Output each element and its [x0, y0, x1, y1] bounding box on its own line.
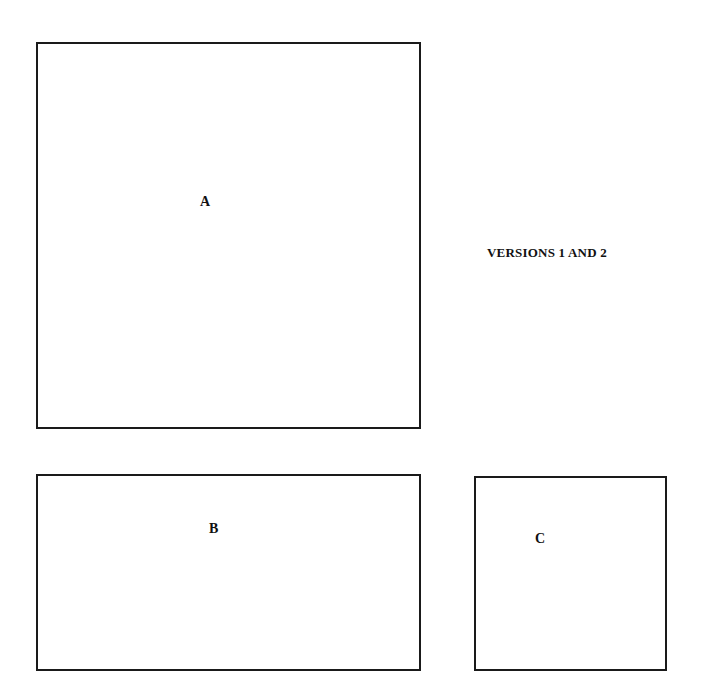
box-b-label: B [209, 521, 218, 537]
box-c [474, 476, 667, 671]
box-a [36, 42, 421, 429]
box-c-label: C [535, 531, 545, 547]
diagram-title: VERSIONS 1 AND 2 [487, 245, 607, 261]
box-b [36, 474, 421, 671]
box-a-label: A [200, 194, 210, 210]
